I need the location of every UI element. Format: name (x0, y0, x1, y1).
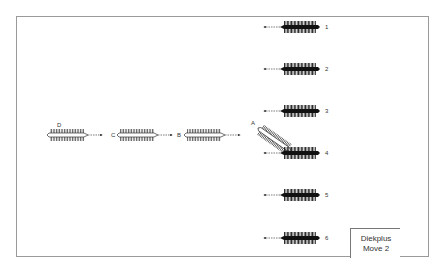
caption-box: Diekplus Move 2 (350, 228, 400, 258)
ship-label-c: C (111, 132, 115, 138)
caption-subtitle: Move 2 (351, 244, 401, 254)
ship-label-a: A (251, 120, 255, 126)
ship-label-b: B (177, 132, 181, 138)
defending-ship-5 (264, 189, 320, 201)
attacking-ship-c (117, 129, 172, 141)
ship-label-1: 1 (325, 24, 328, 30)
defending-ship-4 (264, 147, 320, 159)
defending-ship-6 (264, 232, 320, 244)
ship-label-2: 2 (325, 66, 328, 72)
ship-label-4: 4 (325, 150, 328, 156)
ship-label-6: 6 (325, 235, 328, 241)
attacking-ship-b (184, 129, 240, 141)
defending-ship-3 (264, 105, 320, 117)
ship-label-5: 5 (325, 192, 328, 198)
attacking-ship-d (47, 129, 102, 141)
ship-label-3: 3 (325, 108, 328, 114)
defending-ship-2 (264, 63, 320, 75)
caption-title: Diekplus (351, 234, 401, 244)
defending-ship-1 (264, 21, 320, 33)
ship-label-d: D (57, 122, 61, 128)
caption-text: Diekplus Move 2 (351, 234, 401, 254)
